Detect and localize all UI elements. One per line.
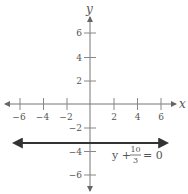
y-axis-label: y	[85, 2, 93, 16]
svg-text:10: 10	[130, 145, 140, 154]
svg-text:−2: −2	[59, 112, 72, 122]
svg-text:y +: y +	[111, 149, 131, 162]
x-axis-label: x	[179, 97, 186, 111]
svg-text:−6: −6	[69, 170, 83, 180]
svg-text:−4: −4	[69, 147, 83, 157]
svg-text:2: 2	[111, 112, 117, 122]
coordinate-plane: −6 −4 −2 2 4 6 6 4 2 −2 −4 −6 y x y + 10…	[0, 0, 188, 194]
svg-text:2: 2	[76, 76, 82, 86]
svg-text:6: 6	[158, 112, 164, 122]
x-tick-labels: −6 −4 −2 2 4 6	[12, 112, 164, 122]
svg-text:−4: −4	[36, 112, 50, 122]
svg-text:6: 6	[76, 28, 82, 38]
equation-label: y + 10 3 = 0	[111, 145, 163, 165]
svg-text:4: 4	[76, 53, 82, 63]
svg-text:−2: −2	[69, 123, 82, 133]
svg-text:4: 4	[135, 112, 141, 122]
svg-text:= 0: = 0	[143, 149, 163, 162]
svg-text:−6: −6	[12, 112, 26, 122]
svg-text:3: 3	[133, 156, 138, 165]
